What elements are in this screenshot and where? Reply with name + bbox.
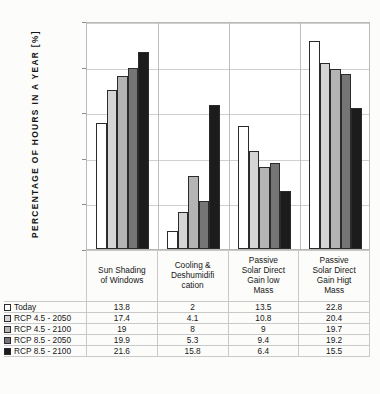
category-separator-1 bbox=[158, 23, 159, 249]
table-cell: 4.1 bbox=[157, 313, 228, 324]
column-header-line: Mass bbox=[229, 286, 299, 296]
y-axis-title-text: PERCENTAGE OF HOURS IN A YEAR [%] bbox=[30, 30, 40, 238]
table-row: RCP 4.5 - 2100198919.7 bbox=[4, 324, 370, 335]
legend-item-5[interactable]: RCP 8.5 - 2100 bbox=[4, 346, 87, 357]
bar bbox=[351, 108, 362, 249]
data-table: Sun Shadingof WindowsCooling &Deshumidif… bbox=[4, 250, 370, 357]
legend-label: Today bbox=[14, 302, 36, 312]
table-cell: 13.8 bbox=[87, 302, 158, 313]
bar bbox=[128, 68, 139, 249]
bar bbox=[178, 212, 189, 249]
column-header-line: of Windows bbox=[87, 276, 157, 286]
column-header-4: PassiveSolar DirectGain HigtMass bbox=[299, 251, 370, 302]
table-cell: 22.8 bbox=[299, 302, 370, 313]
bar bbox=[309, 41, 320, 249]
bar bbox=[167, 231, 178, 249]
bar bbox=[188, 176, 199, 249]
table-cell: 6.4 bbox=[228, 346, 299, 357]
legend-swatch-icon bbox=[4, 315, 11, 322]
column-header-line: Mass bbox=[299, 286, 369, 296]
gridline-25 bbox=[87, 23, 369, 24]
bar bbox=[199, 201, 210, 249]
table-cell: 9.4 bbox=[228, 335, 299, 346]
plot-area bbox=[86, 22, 370, 250]
legend-label: RCP 8.5 - 2100 bbox=[14, 346, 71, 356]
legend-swatch-icon bbox=[4, 304, 11, 311]
legend-swatch-icon bbox=[4, 326, 11, 333]
legend-swatch-icon bbox=[4, 337, 11, 344]
bar bbox=[209, 105, 220, 249]
bar bbox=[270, 163, 281, 249]
column-header-1: Sun Shadingof Windows bbox=[87, 251, 158, 302]
bar bbox=[280, 191, 291, 249]
legend-item-1[interactable]: Today bbox=[4, 302, 87, 313]
table-cell: 20.4 bbox=[299, 313, 370, 324]
bar bbox=[330, 69, 341, 249]
table-cell: 5.3 bbox=[157, 335, 228, 346]
table-cell: 19.7 bbox=[299, 324, 370, 335]
table-cell: 10.8 bbox=[228, 313, 299, 324]
bar bbox=[117, 76, 128, 249]
bar bbox=[320, 63, 331, 249]
table-cell: 21.6 bbox=[87, 346, 158, 357]
table-cell: 2 bbox=[157, 302, 228, 313]
table-row: RCP 8.5 - 205019.95.39.419.2 bbox=[4, 335, 370, 346]
column-header-3: PassiveSolar DirectGain lowMass bbox=[228, 251, 299, 302]
legend-label: RCP 8.5 - 2050 bbox=[14, 335, 71, 345]
table-cell: 19.9 bbox=[87, 335, 158, 346]
bar bbox=[96, 123, 107, 249]
chart-figure: PERCENTAGE OF HOURS IN A YEAR [%] 051015… bbox=[0, 0, 380, 394]
legend-label: RCP 4.5 - 2100 bbox=[14, 324, 71, 334]
table-row: Today13.8213.522.8 bbox=[4, 302, 370, 313]
table-row: RCP 8.5 - 210021.615.86.415.5 bbox=[4, 346, 370, 357]
legend-item-4[interactable]: RCP 8.5 - 2050 bbox=[4, 335, 87, 346]
legend-swatch-icon bbox=[4, 348, 11, 355]
table-header-spacer bbox=[4, 251, 87, 302]
table-cell: 17.4 bbox=[87, 313, 158, 324]
table-cell: 9 bbox=[228, 324, 299, 335]
legend-item-3[interactable]: RCP 4.5 - 2100 bbox=[4, 324, 87, 335]
bar bbox=[238, 126, 249, 249]
legend-label: RCP 4.5 - 2050 bbox=[14, 313, 71, 323]
table-cell: 13.5 bbox=[228, 302, 299, 313]
legend-item-2[interactable]: RCP 4.5 - 2050 bbox=[4, 313, 87, 324]
y-axis-title: PERCENTAGE OF HOURS IN A YEAR [%] bbox=[22, 18, 48, 250]
table-cell: 15.8 bbox=[157, 346, 228, 357]
table-cell: 15.5 bbox=[299, 346, 370, 357]
table-header-row: Sun Shadingof WindowsCooling &Deshumidif… bbox=[4, 251, 370, 302]
table-cell: 8 bbox=[157, 324, 228, 335]
bar bbox=[249, 151, 260, 249]
bar bbox=[138, 52, 149, 249]
column-header-line: cation bbox=[158, 281, 228, 291]
table-cell: 19.2 bbox=[299, 335, 370, 346]
table-cell: 19 bbox=[87, 324, 158, 335]
category-separator-2 bbox=[229, 23, 230, 249]
bar bbox=[107, 90, 118, 249]
bar bbox=[341, 74, 352, 249]
bar bbox=[259, 167, 270, 249]
category-separator-3 bbox=[300, 23, 301, 249]
table-row: RCP 4.5 - 205017.44.110.820.4 bbox=[4, 313, 370, 324]
column-header-2: Cooling &Deshumidification bbox=[157, 251, 228, 302]
